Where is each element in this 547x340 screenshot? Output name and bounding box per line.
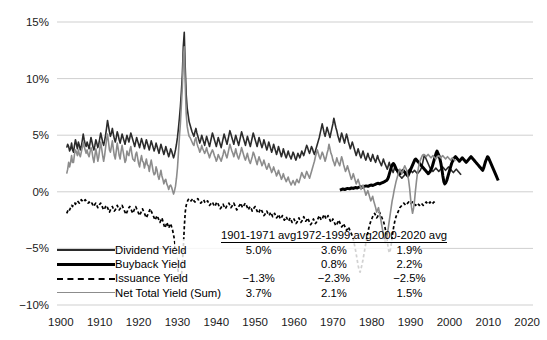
legend-value-col3: 1.5% [372,286,447,300]
legend-label: Issuance Yield [115,271,221,285]
legend-value-col1: −1.3% [221,271,296,285]
legend-label: Dividend Yield [115,243,221,258]
x-axis-tick-label: 1970 [320,316,346,328]
legend-swatch-sw-iss [57,271,115,285]
x-axis-tick-label: 1990 [398,316,424,328]
x-axis-tick-label: 1930 [165,316,191,328]
y-axis-tick-label: −5% [26,242,49,254]
y-axis-tick-label: 10% [26,73,49,85]
legend-label: Net Total Yield (Sum) [115,286,221,300]
legend-header-spacer [57,228,115,243]
chart-legend: 1901-1971 avg 1972-1999 avg 2000-2020 av… [57,228,407,300]
x-axis-tick-label: 1950 [242,316,268,328]
legend-value-col2: −2.3% [296,271,371,285]
x-axis-tick-label: 1940 [204,316,230,328]
legend-header-col1: 1901-1971 avg [221,228,296,243]
legend-swatch-sw-net [57,286,115,300]
legend-row: Buyback Yield0.8%2.2% [57,257,447,271]
legend-value-col1 [221,257,296,271]
legend-value-col2: 0.8% [296,257,371,271]
x-axis-tick-label: 2020 [514,316,540,328]
legend-table: 1901-1971 avg 1972-1999 avg 2000-2020 av… [57,228,447,300]
legend-value-col2: 2.1% [296,286,371,300]
x-axis-tick-label: 1980 [359,316,385,328]
legend-swatch-sw-div [57,243,115,258]
x-axis-tick-label: 2000 [437,316,463,328]
y-axis-tick-label: −10% [19,299,49,311]
legend-header-col2: 1972-1999 avg [296,228,371,243]
y-axis-tick-label: 0% [32,186,49,198]
legend-row: Net Total Yield (Sum)3.7%2.1%1.5% [57,286,447,300]
legend-value-col3: 1.9% [372,243,447,258]
legend-value-col2: 3.6% [296,243,371,258]
legend-header-col3: 2000-2020 avg [372,228,447,243]
legend-value-col1: 3.7% [221,286,296,300]
legend-row: Issuance Yield−1.3%−2.3%−2.5% [57,271,447,285]
legend-row: Dividend Yield5.0%3.6%1.9% [57,243,447,258]
y-axis-tick-label: 15% [26,16,49,28]
legend-value-col1: 5.0% [221,243,296,258]
legend-header-row: 1901-1971 avg 1972-1999 avg 2000-2020 av… [57,228,447,243]
x-axis-tick-label: 1900 [48,316,74,328]
x-axis-tick-label: 1910 [87,316,113,328]
legend-value-col3: −2.5% [372,271,447,285]
legend-swatch-sw-buy [57,257,115,271]
x-axis-tick-label: 1960 [281,316,307,328]
legend-value-col3: 2.2% [372,257,447,271]
x-axis-tick-label: 2010 [476,316,502,328]
y-axis-tick-label: 5% [32,129,49,141]
x-axis-tick-label: 1920 [126,316,152,328]
legend-header-label-spacer [115,228,221,243]
legend-label: Buyback Yield [115,257,221,271]
chart-container: 15%10%5%0%−5%−10%19001910192019301940195… [0,0,547,340]
